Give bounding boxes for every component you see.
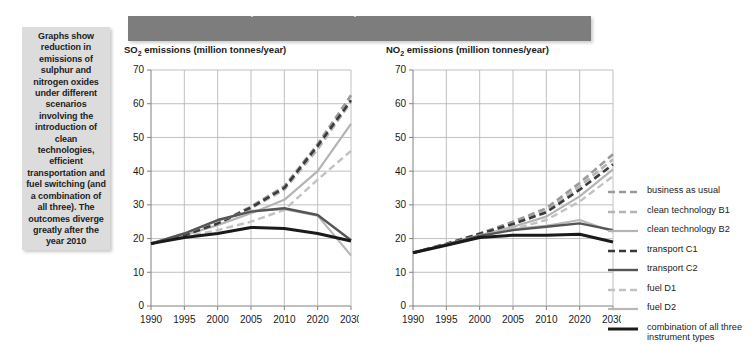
legend-label: combination of all three instrument type… [647,321,752,343]
svg-text:70: 70 [395,64,407,75]
svg-text:30: 30 [395,199,407,210]
legend-swatch-icon [608,189,638,195]
legend-label: business as usual [647,184,720,196]
svg-text:2005: 2005 [502,314,525,325]
legend-swatch-icon [608,248,638,254]
svg-text:2010: 2010 [273,314,296,325]
svg-text:20: 20 [133,233,145,244]
legend-label: clean technology B2 [647,223,730,235]
legend-label: fuel D2 [647,301,676,313]
legend-item[interactable]: clean technology B2 [608,223,752,243]
legend-item[interactable]: business as usual [608,184,752,204]
no2-chart-svg: 0102030405060701990199520002005201020202… [386,64,621,339]
svg-text:10: 10 [133,267,145,278]
svg-text:1995: 1995 [435,314,458,325]
legend-item[interactable]: transport C2 [608,262,752,282]
svg-text:2010: 2010 [535,314,558,325]
legend-label: transport C1 [647,243,698,255]
chart-legend: business as usualclean technology B1clea… [608,184,752,345]
svg-text:60: 60 [133,98,145,109]
svg-text:2020: 2020 [307,314,330,325]
svg-text:2020: 2020 [569,314,592,325]
svg-text:20: 20 [395,233,407,244]
legend-swatch-icon [608,209,638,215]
legend-item[interactable]: combination of all three instrument type… [608,321,752,345]
svg-text:50: 50 [395,132,407,143]
legend-label: clean technology B1 [647,204,730,216]
legend-label: transport C2 [647,262,698,274]
svg-text:10: 10 [395,267,407,278]
so2-plot: 0102030405060701990199520002005201020202… [124,64,359,339]
legend-swatch-icon [608,306,638,312]
legend-swatch-icon [608,326,638,332]
no2-plot: 0102030405060701990199520002005201020202… [386,64,621,339]
caption-text: Graphs show reduction in emissions of su… [26,31,106,248]
legend-item[interactable]: fuel D2 [608,301,752,321]
so2-axis-title: SO2 emissions (million tonnes/year) [124,44,286,57]
legend-item[interactable]: fuel D1 [608,282,752,302]
svg-text:40: 40 [133,166,145,177]
svg-text:60: 60 [395,98,407,109]
svg-text:2030: 2030 [340,314,359,325]
svg-text:2000: 2000 [469,314,492,325]
legend-swatch-icon [608,228,638,234]
svg-text:2000: 2000 [207,314,230,325]
legend-item[interactable]: clean technology B1 [608,204,752,224]
legend-swatch-icon [608,267,638,273]
no2-axis-title: NO2 emissions (million tonnes/year) [386,44,549,57]
legend-item[interactable]: transport C1 [608,243,752,263]
svg-text:40: 40 [395,166,407,177]
svg-text:30: 30 [133,199,145,210]
svg-text:0: 0 [400,300,406,311]
legend-label: fuel D1 [647,282,676,294]
svg-text:1990: 1990 [402,314,425,325]
page-title: Sulphur and nitrogen dioxide emissions, … [12,4,472,18]
svg-text:2005: 2005 [240,314,263,325]
so2-chart-svg: 0102030405060701990199520002005201020202… [124,64,359,339]
svg-text:1995: 1995 [173,314,196,325]
legend-swatch-icon [608,287,638,293]
chart-title-bar [128,16,591,41]
svg-text:0: 0 [138,300,144,311]
svg-text:70: 70 [133,64,145,75]
svg-text:50: 50 [133,132,145,143]
svg-text:1990: 1990 [140,314,163,325]
